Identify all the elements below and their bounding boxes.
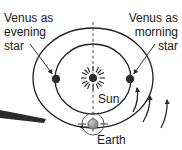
earth-body [88, 119, 98, 129]
venus-evening-star-body [52, 75, 60, 83]
morning-star-label-line2: morning [135, 25, 178, 39]
evening-star-label-line3: star [4, 39, 24, 53]
morning-star-label-line1: Venus as [129, 11, 178, 25]
earth-label: Earth [97, 133, 126, 147]
outer-direction-arc [161, 100, 167, 128]
evening-star-label-line2: evening [4, 25, 46, 39]
venus-morning-star-body [126, 75, 134, 83]
sun-body [89, 74, 97, 82]
venus-orbit-direction-arc [133, 88, 138, 112]
morning-star-label-line3: star [158, 39, 178, 53]
cropped-arrow-wedge [0, 110, 46, 123]
diagram-canvas: Venus as evening star Venus as morning s… [0, 0, 182, 150]
venus-orbit-diagram: Venus as evening star Venus as morning s… [0, 0, 182, 150]
sun-label: Sun [98, 92, 119, 106]
evening-star-label-line1: Venus as [4, 11, 53, 25]
